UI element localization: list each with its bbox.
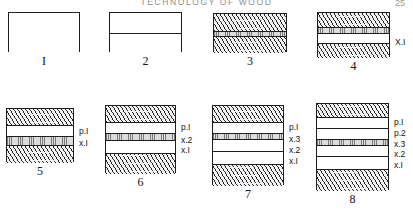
figure-8-band-2-blank bbox=[317, 117, 388, 128]
figure-6-caption: 6 bbox=[105, 176, 176, 188]
figure-3-band-3-hatch bbox=[214, 36, 286, 53]
figure-7-ply-label-3: x.2 bbox=[289, 146, 300, 155]
figure-3-band-1-hatch bbox=[214, 14, 286, 31]
figure-8-band-7-hatch bbox=[317, 169, 388, 191]
figure-8-band-6-blank bbox=[317, 156, 388, 169]
figure-8-stack bbox=[316, 103, 389, 190]
figure-5-stack bbox=[6, 108, 74, 162]
figure-7-band-6-hatch bbox=[213, 164, 283, 186]
figure-4-band-1-hatch bbox=[318, 13, 389, 27]
figure-7-band-5-blank bbox=[213, 151, 283, 164]
figure-4-caption: 4 bbox=[317, 60, 390, 72]
figure-6-band-5-hatch bbox=[106, 153, 175, 174]
figure-7-stack bbox=[212, 105, 284, 185]
figure-8-ply-label-1: p.I bbox=[394, 118, 403, 127]
figure-5-band-1-hatch bbox=[7, 109, 73, 125]
running-head: TECHNOLOGY OF WOOD bbox=[0, 0, 413, 8]
figure-6-ply-label-2: x.2 bbox=[181, 136, 192, 145]
figure-8-caption: 8 bbox=[316, 193, 389, 205]
figure-4-stack bbox=[317, 12, 390, 57]
figure-8-band-3-blank bbox=[317, 128, 388, 139]
figure-2-band-1-blank bbox=[110, 13, 181, 33]
figure-3-stack bbox=[213, 13, 287, 52]
figure-8-ply-label-5: x.I bbox=[394, 161, 403, 170]
figure-1-band-1-blank bbox=[9, 13, 79, 53]
figure-8-ply-label-4: x.2 bbox=[394, 150, 405, 159]
figure-6-band-3-stipple bbox=[106, 133, 175, 140]
figure-6-ply-label-3: x.I bbox=[181, 146, 190, 155]
figure-5-ply-label-2: x.I bbox=[79, 139, 88, 148]
figure-7-band-4-blank bbox=[213, 139, 283, 151]
figure-5-caption: 5 bbox=[6, 165, 74, 177]
figure-6-stack bbox=[105, 105, 176, 173]
figure-5-band-2-blank bbox=[7, 125, 73, 136]
figure-4-ply-label-1: X.I bbox=[395, 38, 405, 47]
figure-8-band-1-hatch bbox=[317, 104, 388, 117]
figure-6-band-2-blank bbox=[106, 122, 175, 133]
figure-4-band-3-blank bbox=[318, 33, 389, 43]
figure-2-band-2-blank bbox=[110, 33, 181, 53]
figure-7-ply-label-4: x.I bbox=[289, 157, 298, 166]
figure-2-stack bbox=[109, 12, 182, 52]
figure-6-band-4-blank bbox=[106, 140, 175, 153]
page-number: 25 bbox=[395, 0, 405, 9]
figure-8-ply-label-3: x.3 bbox=[394, 140, 405, 149]
figure-7-ply-label-1: p.I bbox=[289, 123, 298, 132]
figure-7-band-2-blank bbox=[213, 122, 283, 133]
figure-1-stack bbox=[8, 12, 80, 52]
figure-3-caption: 3 bbox=[213, 55, 287, 67]
figure-7-band-1-hatch bbox=[213, 106, 283, 122]
figure-2-caption: 2 bbox=[109, 55, 182, 67]
figure-7-ply-label-2: x.3 bbox=[289, 135, 300, 144]
figure-7-caption: 7 bbox=[212, 188, 284, 200]
figure-8-band-5-blank bbox=[317, 145, 388, 156]
figure-5-ply-label-1: p.I bbox=[79, 127, 88, 136]
figure-6-ply-label-1: p.I bbox=[181, 123, 190, 132]
figure-5-band-4-hatch bbox=[7, 145, 73, 163]
figure-5-band-3-stipple bbox=[7, 136, 73, 145]
figure-1-caption: I bbox=[8, 55, 80, 67]
figure-8-ply-label-2: p.2 bbox=[394, 129, 406, 138]
figure-4-band-4-hatch bbox=[318, 43, 389, 58]
figure-6-band-1-hatch bbox=[106, 106, 175, 122]
figure-plate-page: { "page": { "running_head": "TECHNOLOGY … bbox=[0, 0, 413, 210]
